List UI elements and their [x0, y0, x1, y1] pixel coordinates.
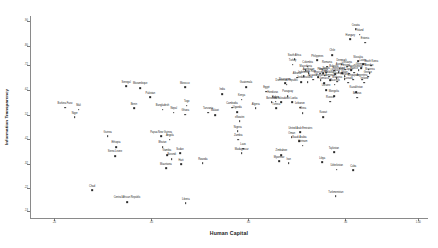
data-point [133, 108, 135, 110]
data-point [275, 101, 277, 103]
data-point [107, 135, 109, 137]
point-label: Egypt [263, 87, 269, 90]
data-point [115, 146, 117, 148]
point-label: Tajikistan [329, 148, 339, 151]
point-label: Cuba [350, 166, 356, 169]
point-label: Belarus [353, 94, 362, 97]
data-point [165, 167, 167, 169]
point-label: Estonia [361, 38, 369, 41]
point-label: Ghana [182, 110, 190, 113]
point-label: Malawi [211, 111, 219, 114]
point-label: Lebanon [295, 103, 305, 106]
point-label: Sri Lanka [287, 98, 298, 101]
data-point [300, 81, 302, 83]
data-point [300, 131, 302, 133]
point-label: Poland [356, 31, 364, 34]
point-label: Ukraine [322, 86, 331, 89]
point-label: Iran [287, 159, 291, 162]
point-label: Kenya [238, 96, 245, 99]
data-point [239, 121, 241, 123]
point-label: Tunisia [272, 104, 280, 107]
y-tick-label: .72 [24, 64, 28, 67]
point-label: Chile [330, 51, 336, 54]
data-point [359, 34, 361, 36]
point-label: South Africa [288, 55, 302, 58]
data-point [180, 163, 182, 165]
data-point [169, 139, 171, 141]
data-point [114, 155, 116, 157]
data-point [184, 114, 186, 116]
point-label: Nigeria [234, 127, 242, 130]
point-label: Sudan [176, 149, 183, 152]
y-tick-label: .22 [24, 187, 28, 190]
point-label: Liberia [182, 199, 190, 202]
y-tick-label: .42 [24, 138, 28, 141]
point-label: Vietnam [298, 141, 307, 144]
data-point [302, 145, 304, 147]
data-point [139, 87, 141, 89]
data-point [364, 42, 366, 44]
data-point [286, 84, 288, 86]
point-label: Saudi Arabia [292, 137, 306, 140]
point-label: Turkmenistan [328, 192, 343, 195]
data-point [278, 160, 280, 162]
data-point [349, 73, 351, 75]
data-point [323, 82, 325, 84]
data-point [78, 109, 80, 111]
data-point [348, 82, 350, 84]
data-point [292, 64, 294, 66]
point-label: Ethiopia [111, 143, 120, 146]
data-point [356, 97, 358, 99]
point-label: China [299, 109, 306, 112]
point-label: Burundi [167, 155, 176, 158]
data-point [344, 75, 346, 77]
point-label: Nepal [170, 108, 177, 111]
data-point [275, 107, 277, 109]
data-point [91, 190, 93, 192]
point-label: India [219, 90, 224, 93]
point-label: Thailand [303, 78, 313, 81]
point-label: Ireland [361, 78, 369, 81]
y-axis-line: .90.80.72.62.52.42.32.22.13 [30, 16, 31, 218]
data-point [280, 101, 282, 103]
data-point [179, 153, 181, 155]
data-point [360, 67, 362, 69]
data-point [236, 111, 238, 113]
x-axis-title: Human Capital [30, 230, 428, 236]
point-label: Jamaica [319, 79, 328, 82]
point-label: Uzbekistan [331, 166, 343, 169]
data-point [255, 107, 257, 109]
x-tick-label: .25 [52, 222, 56, 225]
data-point [309, 75, 311, 77]
point-label: Angola [166, 136, 174, 139]
data-point [307, 81, 309, 83]
point-label: Paraguay [282, 92, 293, 95]
point-label: Croatia [352, 25, 360, 28]
point-label: Bangladesh [156, 105, 169, 108]
data-point [352, 169, 354, 171]
data-point [64, 107, 66, 109]
data-point [341, 72, 343, 74]
data-point [364, 82, 366, 84]
data-point [150, 96, 152, 98]
data-point [184, 87, 186, 89]
point-label: Mauritius [330, 81, 340, 84]
data-point [316, 59, 318, 61]
data-point [302, 112, 304, 114]
point-label: Morocco [180, 83, 190, 86]
x-tick-label: .85 [344, 222, 348, 225]
point-label: Pakistan [146, 93, 156, 96]
point-label: Kazakhstan [350, 88, 363, 91]
point-label: Mozambique [133, 84, 147, 87]
point-label: Philippines [311, 56, 323, 59]
point-label: Sierra Leone [108, 152, 122, 155]
point-label: El Salvador [275, 98, 288, 101]
data-point [125, 86, 127, 88]
data-point [186, 105, 188, 107]
scatter-plot-figure: Burkina FasoMaliNigerGuineaEthiopiaSierr… [0, 0, 438, 248]
data-point [291, 101, 293, 103]
data-point [336, 169, 338, 171]
data-point [237, 139, 239, 141]
point-label: Mongolia [329, 92, 339, 95]
y-axis-title: Information Transparency [4, 89, 9, 145]
